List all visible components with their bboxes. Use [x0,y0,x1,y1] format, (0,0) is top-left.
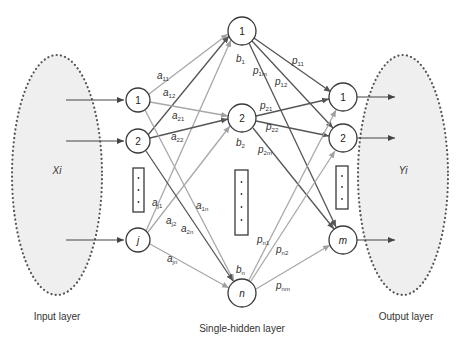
hidden-node-n: n [228,279,256,307]
output-ellipsis-box [336,166,348,209]
weight-p1m: p1m [252,65,267,77]
hidden-ellipsis-box [235,170,248,235]
weight-p22: p22 [265,121,279,133]
svg-text:2: 2 [239,113,245,124]
input-node-1: 1 [126,88,150,112]
input-node-2: 2 [126,129,150,153]
bias-bn: bn [236,264,245,276]
input-layer-label: Input layer [34,311,81,322]
hidden-layer-label: Single-hidden layer [199,323,285,334]
weight-a21: a21 [172,110,185,122]
input-ellipsis-box [133,168,144,212]
weight-pn2: pn2 [275,244,289,256]
weight-a12: a12 [163,87,176,99]
weight-p11: p11 [291,55,304,67]
neural-network-diagram: Xi Yi [0,0,458,345]
weight-a11: a11 [157,70,169,82]
svg-text:1: 1 [239,26,245,37]
weight-a22: a22 [171,131,184,143]
bias-b1: b1 [236,53,246,65]
svg-text:1: 1 [135,95,141,106]
weight-ajn: ajn [167,253,177,265]
weight-pnm: pnm [275,280,290,292]
output-node-m: m [329,226,357,254]
input-node-j: j [126,228,150,252]
svg-text:2: 2 [340,133,346,144]
input-set-label: Xi [52,165,63,176]
hidden-node-2: 2 [228,104,256,132]
svg-text:n: n [239,288,245,299]
svg-text:2: 2 [135,136,141,147]
output-set-label: Yi [399,165,408,176]
weight-p2m: p2m [257,144,272,156]
weight-a2n: a2n [181,223,193,235]
output-node-1: 1 [329,83,357,111]
weight-pn1: pn1 [256,234,270,246]
weight-aj1: aj1 [152,197,163,209]
weight-aj2: aj2 [166,215,177,227]
svg-text:1: 1 [340,92,346,103]
svg-text:m: m [339,235,347,246]
output-node-2: 2 [329,124,357,152]
bias-b2: b2 [236,137,246,149]
weight-p21: p21 [259,100,273,112]
output-layer-label: Output layer [379,311,434,322]
weight-a1n: a1n [196,200,208,212]
hidden-node-1: 1 [228,17,256,45]
